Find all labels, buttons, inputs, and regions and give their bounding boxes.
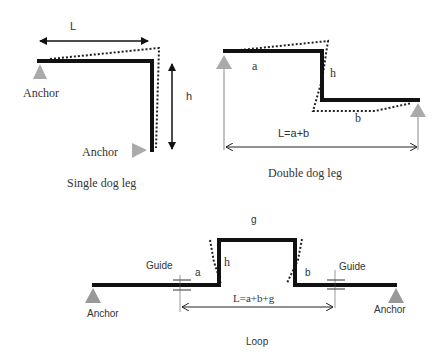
anchor-label: Anchor <box>82 145 118 159</box>
anchor-label: Anchor <box>23 86 59 100</box>
length-label: L=a+b+g <box>233 292 275 304</box>
top-segment-label: g <box>251 214 257 225</box>
height-label: h <box>186 90 192 102</box>
loop-figure: Guide Guide Anchor Anchor L=a+b+g g h a … <box>85 214 406 347</box>
anchor-label: Anchor <box>374 304 406 315</box>
height-label: h <box>224 255 230 269</box>
anchor-triangle-icon <box>410 103 426 117</box>
figure-caption: Double dog leg <box>268 166 342 180</box>
guide-label: Guide <box>339 261 366 272</box>
anchor-triangle-icon <box>33 64 47 79</box>
single-dog-leg-figure: L h Anchor Anchor Single dog leg <box>23 20 192 190</box>
anchor-triangle-icon <box>85 288 101 303</box>
length-label: L=a+b <box>278 127 309 139</box>
guide-left <box>173 275 191 312</box>
guide-label: Guide <box>146 260 173 271</box>
figure-caption: Loop <box>246 336 269 347</box>
pipe-expansion-diagram: L h Anchor Anchor Single dog leg L=a+b a <box>0 0 444 360</box>
segment-a-label: a <box>252 59 258 73</box>
pipe-route <box>37 61 152 152</box>
figure-caption: Single dog leg <box>67 176 136 190</box>
segment-b-label: b <box>355 111 361 125</box>
segment-b-label: b <box>305 267 311 278</box>
height-label: h <box>330 66 336 80</box>
double-dog-leg-figure: L=a+b a h b Double dog leg <box>216 41 426 180</box>
anchor-label: Anchor <box>87 308 119 319</box>
guide-right <box>327 270 345 308</box>
anchor-triangle-icon <box>132 143 147 158</box>
length-label: L <box>70 20 76 32</box>
segment-a-label: a <box>195 267 201 278</box>
anchor-triangle-icon <box>216 55 232 69</box>
anchor-triangle-icon <box>388 288 404 303</box>
